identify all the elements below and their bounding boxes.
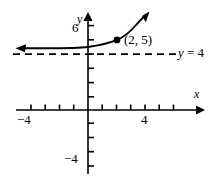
- y-axis-arrowhead: [83, 12, 92, 21]
- y-tick-label-6: 6: [72, 21, 79, 34]
- graph-figure: y x 6 −4 −4 4 (2, 5) y = 4: [0, 0, 217, 181]
- x-axis-arrowhead: [196, 105, 205, 114]
- y-axis: [83, 12, 94, 174]
- x-axis-ticks: [31, 105, 174, 111]
- asymptote-label-value: = 4: [184, 45, 204, 60]
- curve-left-arrowhead: [16, 44, 27, 52]
- data-point-label: (2, 5): [124, 33, 152, 46]
- asymptote-label: y = 4: [178, 46, 204, 59]
- y-tick-label-minus-4: −4: [64, 152, 78, 165]
- curve-right-arrowhead: [142, 12, 150, 23]
- x-axis: [16, 105, 205, 115]
- x-axis-label: x: [194, 88, 199, 100]
- coordinate-plane: [0, 0, 217, 181]
- x-tick-label-4: 4: [141, 113, 148, 126]
- data-point-marker: [114, 37, 121, 44]
- x-tick-label-minus-4: −4: [17, 113, 31, 126]
